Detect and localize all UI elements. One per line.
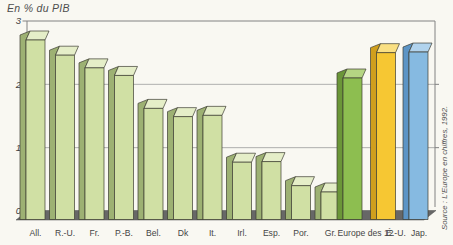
bar-front-face [203, 115, 222, 219]
bar-front-face [409, 52, 428, 219]
bar-É.-U. [371, 44, 400, 220]
bar-top-face [203, 106, 226, 115]
x-axis-label: Por. [293, 228, 308, 238]
x-axis-label: P.-B. [115, 228, 133, 238]
x-axis-label: Esp. [263, 228, 280, 238]
bar-front-face [115, 75, 134, 219]
x-axis-labels: All.R.-U.Fr.P.-B.Bel.DkIt.Irl.Esp.Por.Gr… [30, 228, 428, 238]
x-axis-label: Fr. [89, 228, 99, 238]
bar-Jap. [403, 43, 432, 219]
bar-top-face [233, 153, 256, 162]
bar-top-face [56, 46, 79, 55]
x-axis-label: Bel. [146, 228, 161, 238]
x-axis-label: Dk [178, 228, 189, 238]
bars [20, 31, 432, 220]
chart-title: En % du PIB [7, 2, 70, 14]
chart-figure: 0123All.R.-U.Fr.P.-B.Bel.DkIt.Irl.Esp.Po… [0, 0, 453, 245]
bar-It. [197, 106, 226, 219]
x-axis-label: Irl. [237, 228, 247, 238]
bar-top-face [85, 59, 108, 68]
bar-top-face [144, 99, 167, 108]
bar-front-face [343, 78, 362, 220]
bar-top-face [343, 69, 366, 78]
bar-front-face [233, 162, 252, 219]
bar-front-face [292, 186, 311, 220]
x-axis-label: Jap. [411, 228, 427, 238]
bar-top-face [262, 153, 285, 162]
bar-front-face [56, 55, 75, 219]
bar-front-face [174, 117, 193, 220]
bar-top-face [115, 66, 138, 75]
bar-Irl. [227, 153, 256, 219]
x-axis-label: All. [30, 228, 42, 238]
bar-front-face [26, 40, 45, 220]
bar-Fr. [79, 59, 108, 220]
bar-Por. [286, 177, 315, 220]
x-axis-label: R.-U. [55, 228, 75, 238]
x-axis-label: Gr. [325, 228, 336, 238]
bar-top-face [292, 177, 315, 186]
bar-All. [20, 31, 49, 220]
bar-Esp. [256, 153, 285, 220]
bar-Dk [168, 108, 197, 220]
bar-front-face [262, 162, 281, 220]
bar-top-face [409, 43, 432, 52]
bar-P.-B. [109, 66, 138, 219]
chart-canvas: 0123All.R.-U.Fr.P.-B.Bel.DkIt.Irl.Esp.Po… [0, 0, 453, 245]
bar-top-face [377, 44, 400, 53]
source-note: Source : L'Europe en chiffres, 1992. [440, 52, 453, 230]
bar-top-face [174, 108, 197, 117]
bar-front-face [144, 108, 163, 219]
y-tick-label: 3 [16, 15, 22, 26]
bar-R.-U. [50, 46, 79, 219]
x-axis-label: It. [209, 228, 216, 238]
bar-front-face [85, 68, 104, 220]
bar-Europe des 12 [337, 69, 366, 220]
x-axis-label: É.-U. [386, 228, 406, 238]
bar-Bel. [138, 99, 167, 219]
bar-front-face [377, 53, 396, 220]
bar-top-face [26, 31, 49, 40]
